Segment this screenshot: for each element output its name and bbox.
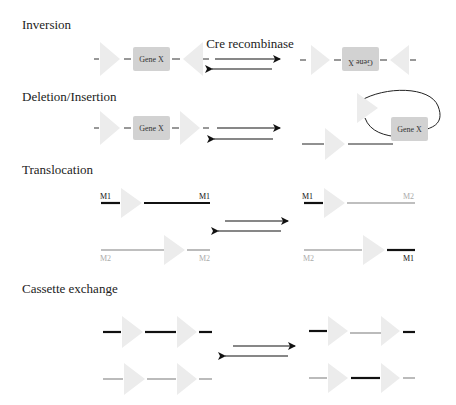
svg-text:Gene X: Gene X bbox=[397, 125, 422, 134]
loxp-site-icon bbox=[381, 363, 400, 393]
loxp-site-icon bbox=[363, 235, 385, 265]
svg-text:M1: M1 bbox=[403, 254, 414, 263]
translocation-arrows bbox=[218, 221, 288, 231]
loxp-site-icon bbox=[325, 128, 345, 160]
svg-text:Gene X: Gene X bbox=[139, 124, 164, 133]
cassette-right-top bbox=[309, 316, 415, 346]
recombination-diagram: Gene X Cre recombinase Gene X Gene X bbox=[0, 0, 456, 405]
svg-text:M2: M2 bbox=[303, 254, 314, 263]
cassette-left-top bbox=[103, 316, 212, 348]
inversion-arrows: Cre recombinase bbox=[206, 36, 294, 69]
cassette-arrows bbox=[225, 346, 295, 356]
loxp-site-icon bbox=[183, 42, 203, 76]
svg-text:Gene X: Gene X bbox=[139, 55, 164, 64]
loxp-site-icon bbox=[311, 45, 330, 75]
svg-text:Cre recombinase: Cre recombinase bbox=[206, 36, 294, 51]
translocation-left-top: M1 M1 bbox=[100, 188, 210, 218]
svg-text:M1: M1 bbox=[302, 192, 313, 201]
svg-text:M2: M2 bbox=[199, 254, 210, 263]
translocation-right-top: M1 M2 bbox=[302, 188, 415, 218]
inversion-right-construct: Gene X bbox=[300, 45, 416, 75]
cassette-right-bottom bbox=[309, 363, 415, 393]
svg-text:M2: M2 bbox=[100, 254, 111, 263]
svg-text:M1: M1 bbox=[199, 192, 210, 201]
loxp-site-icon bbox=[328, 363, 348, 393]
inversion-left-construct: Gene X bbox=[94, 42, 209, 76]
deletion-right-construct: Gene X bbox=[302, 90, 440, 160]
loxp-site-icon bbox=[328, 316, 348, 346]
loxp-site-icon bbox=[390, 45, 409, 75]
loxp-site-icon bbox=[122, 316, 143, 348]
translocation-right-bottom: M2 M1 bbox=[303, 235, 415, 265]
loxp-site-icon bbox=[164, 235, 185, 265]
loxp-site-icon bbox=[100, 42, 120, 76]
svg-text:M1: M1 bbox=[100, 192, 111, 201]
loxp-site-icon bbox=[180, 111, 200, 145]
svg-text:M2: M2 bbox=[403, 192, 414, 201]
loxp-site-icon bbox=[381, 316, 400, 346]
loxp-site-icon bbox=[177, 363, 197, 395]
loxp-site-icon bbox=[124, 363, 145, 395]
deletion-arrows bbox=[214, 128, 280, 139]
translocation-left-bottom: M2 M2 bbox=[100, 235, 210, 265]
loxp-site-icon bbox=[121, 188, 142, 218]
loxp-site-icon bbox=[100, 111, 120, 145]
loxp-site-icon bbox=[177, 316, 197, 348]
cassette-left-bottom bbox=[103, 363, 212, 395]
deletion-left-construct: Gene X bbox=[94, 111, 209, 145]
svg-text:Gene X: Gene X bbox=[348, 58, 373, 67]
loxp-site-icon bbox=[324, 188, 345, 218]
